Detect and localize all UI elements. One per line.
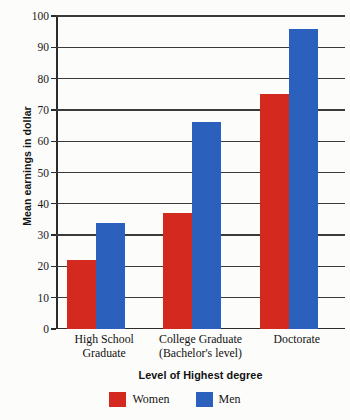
legend-swatch-women [109, 392, 126, 407]
legend-label: Men [219, 392, 241, 407]
y-axis-tick-label: 40 [38, 198, 50, 210]
plot-area: 0102030405060708090100 [56, 16, 345, 329]
y-axis-tick [51, 266, 56, 267]
y-axis-tick-label: 90 [38, 41, 50, 53]
y-axis-tick-label: 80 [38, 73, 50, 85]
y-axis-tick-label: 10 [38, 292, 50, 304]
legend-swatch-men [196, 392, 213, 407]
bar-chart: Mean earnings in dollar 0102030405060708… [0, 0, 350, 420]
y-axis-tick [51, 234, 56, 235]
category-label-line: Doctorate [229, 333, 350, 347]
bar-women-1 [163, 213, 192, 329]
chart-legend: WomenMen [0, 392, 350, 407]
y-axis-tick-label: 60 [38, 135, 50, 147]
y-axis-tick [51, 15, 56, 16]
y-axis-tick-label: 20 [38, 260, 50, 272]
legend-label: Women [132, 392, 169, 407]
x-axis-title: Level of Highest degree [56, 369, 345, 381]
category-label-line: (Bachelor's level) [132, 347, 268, 361]
bar-men-0 [96, 223, 125, 329]
bar-women-2 [260, 94, 289, 329]
gridline [56, 15, 345, 16]
y-axis-tick [51, 203, 56, 204]
y-axis-tick [51, 172, 56, 173]
y-axis-tick-label: 70 [38, 104, 50, 116]
y-axis-tick [51, 328, 56, 329]
bar-men-1 [192, 122, 221, 329]
legend-item-men[interactable]: Men [196, 392, 241, 407]
bar-men-2 [289, 29, 318, 329]
y-axis-tick-label: 50 [38, 167, 50, 179]
y-axis-tick [51, 141, 56, 142]
y-axis-tick [51, 78, 56, 79]
bar-women-0 [67, 260, 96, 329]
y-axis-tick-label: 30 [38, 229, 50, 241]
legend-item-women[interactable]: Women [109, 392, 169, 407]
x-axis-category-label: Doctorate [229, 333, 350, 347]
y-axis-tick-label: 100 [32, 10, 49, 22]
y-axis-tick [51, 47, 56, 48]
y-axis-tick [51, 297, 56, 298]
x-axis-category-labels: High SchoolGraduateCollege Graduate(Bach… [56, 333, 345, 369]
y-axis-tick [51, 109, 56, 110]
y-axis-title: Mean earnings in dollar [21, 71, 33, 261]
